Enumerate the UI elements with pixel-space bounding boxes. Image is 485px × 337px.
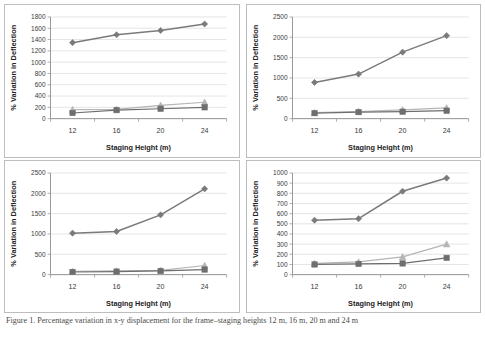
x-tick-label: 20 [398, 282, 406, 290]
y-tick-label: 800 [35, 70, 46, 77]
x-tick-label: 16 [113, 282, 121, 290]
data-point-diamond [69, 230, 75, 236]
chart-panel-top-right: 0500100015002000250012162024Staging Heig… [246, 4, 482, 158]
y-tick-label: 1200 [31, 47, 46, 54]
chart-panel-bottom-right: 0100200300400500600700800900100012162024… [246, 160, 482, 314]
data-point-diamond [399, 49, 405, 55]
x-tick-label: 20 [398, 127, 406, 135]
square-marker [399, 109, 404, 114]
x-tick-label: 12 [69, 282, 77, 290]
y-tick-label: 400 [276, 230, 287, 237]
square-marker [114, 107, 119, 112]
x-axis-title: Staging Height (m) [348, 298, 413, 307]
x-axis-title: Staging Height (m) [106, 142, 171, 151]
data-point-diamond [69, 40, 75, 46]
y-axis-title: % Variation in Deflection [250, 180, 259, 266]
y-tick-label: 2000 [31, 189, 46, 196]
y-tick-label: 700 [276, 199, 287, 206]
y-axis-title: % Variation in Deflection [9, 180, 18, 266]
x-tick-label: 12 [310, 282, 318, 290]
figure-caption: Figure 1. Percentage variation in x-y di… [6, 316, 479, 326]
y-axis-title: % Variation in Deflection [250, 24, 259, 110]
diamond-marker [202, 185, 208, 191]
diamond-marker [443, 174, 449, 180]
series-triangle [69, 99, 208, 112]
y-tick-label: 900 [276, 179, 287, 186]
y-tick-label: 600 [35, 81, 46, 88]
square-marker [158, 106, 163, 111]
plot-area-bottom-right: 0100200300400500600700800900100012162024… [247, 161, 481, 313]
square-marker [114, 268, 119, 273]
series-line-diamond [314, 36, 446, 83]
y-tick-label: 1000 [31, 230, 46, 237]
y-tick-label: 500 [276, 220, 287, 227]
data-point-square [114, 107, 119, 112]
y-tick-label: 1500 [31, 209, 46, 216]
data-point-square [70, 269, 75, 274]
square-marker [443, 255, 448, 260]
series-diamond [69, 21, 207, 46]
y-tick-label: 1000 [31, 59, 46, 66]
x-axis-title: Staging Height (m) [348, 142, 413, 151]
x-tick-label: 24 [201, 127, 209, 135]
series-line-square [73, 107, 205, 113]
y-tick-label: 800 [276, 189, 287, 196]
x-axis-title: Staging Height (m) [106, 298, 171, 307]
y-tick-label: 0 [283, 115, 287, 122]
y-tick-label: 0 [283, 270, 287, 277]
chart-grid: 0200400600800100012001400160018001216202… [0, 0, 485, 313]
diamond-marker [311, 79, 317, 85]
series-line-diamond [73, 188, 205, 232]
plot-area-bottom-left: 0500100015002000250012162024Staging Heig… [5, 161, 239, 313]
series-diamond [311, 33, 449, 86]
diamond-marker [311, 217, 317, 223]
diamond-marker [202, 21, 208, 27]
diamond-marker [69, 230, 75, 236]
data-point-square [399, 109, 404, 114]
chart-svg-top-left: 0200400600800100012001400160018001216202… [5, 5, 239, 157]
data-point-square [355, 109, 360, 114]
y-tick-label: 1500 [273, 54, 288, 61]
x-tick-label: 20 [157, 282, 165, 290]
data-point-diamond [443, 33, 449, 39]
figure-container: 0200400600800100012001400160018001216202… [0, 0, 485, 337]
chart-svg-top-right: 0500100015002000250012162024Staging Heig… [247, 5, 481, 157]
x-tick-label: 20 [157, 127, 165, 135]
x-tick-label: 16 [113, 127, 121, 135]
y-tick-label: 400 [35, 92, 46, 99]
x-tick-label: 12 [310, 127, 318, 135]
x-tick-label: 12 [69, 127, 77, 135]
y-tick-label: 300 [276, 240, 287, 247]
x-tick-label: 24 [201, 282, 209, 290]
x-tick-label: 24 [442, 282, 450, 290]
series-triangle [311, 240, 450, 265]
y-tick-label: 1000 [273, 74, 288, 81]
y-tick-label: 2500 [273, 13, 288, 20]
data-point-square [202, 266, 207, 271]
data-point-square [158, 268, 163, 273]
chart-svg-bottom-left: 0500100015002000250012162024Staging Heig… [5, 161, 239, 313]
diamond-marker [443, 33, 449, 39]
y-tick-label: 200 [35, 104, 46, 111]
square-marker [70, 110, 75, 115]
square-marker [202, 266, 207, 271]
y-tick-label: 500 [276, 95, 287, 102]
y-tick-label: 100 [276, 260, 287, 267]
plot-area-top-left: 0200400600800100012001400160018001216202… [5, 5, 239, 157]
square-marker [355, 109, 360, 114]
data-point-diamond [311, 217, 317, 223]
y-tick-label: 1000 [273, 169, 288, 176]
diamond-marker [69, 40, 75, 46]
data-point-square [355, 261, 360, 266]
data-point-square [443, 108, 448, 113]
y-tick-label: 2500 [31, 169, 46, 176]
y-axis-title: % Variation in Deflection [9, 24, 18, 110]
square-marker [399, 260, 404, 265]
square-marker [355, 261, 360, 266]
diamond-marker [158, 211, 164, 217]
diamond-marker [399, 49, 405, 55]
data-point-diamond [113, 32, 119, 38]
square-marker [202, 105, 207, 110]
y-tick-label: 1800 [31, 13, 46, 20]
diamond-marker [355, 71, 361, 77]
